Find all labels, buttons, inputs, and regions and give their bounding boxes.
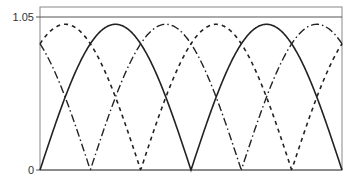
y-tick-label-bottom: 0 [28, 164, 34, 176]
y-tick-label-top: 1.05 [13, 11, 34, 23]
series-dashed-line [40, 24, 342, 169]
plot-frame [40, 7, 342, 170]
chart: 1.05 0 [0, 0, 360, 181]
series-solid-line [40, 24, 342, 170]
series-dashdot-line [40, 24, 342, 169]
